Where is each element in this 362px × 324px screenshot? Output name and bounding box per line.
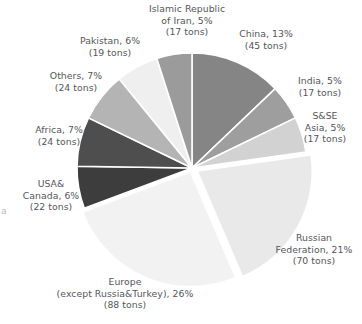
- cropped-text-fragment: a: [1, 205, 7, 217]
- pie-label-line: (17 tons): [133, 26, 241, 38]
- pie-label-line: Europe: [10, 276, 240, 288]
- pie-slice-label: USA&Canada, 6%(22 tons): [9, 178, 93, 213]
- pie-label-line: (70 tons): [266, 255, 362, 267]
- pie-label-line: Russian: [266, 232, 362, 244]
- pie-label-line: (19 tons): [62, 47, 158, 59]
- pie-label-line: Asia, 5%: [290, 122, 360, 134]
- pie-slice-label: RussianFederation, 21%(70 tons): [266, 232, 362, 267]
- pie-label-line: Islamic Republic: [133, 3, 241, 15]
- pie-label-line: (24 tons): [32, 82, 120, 94]
- pie-label-line: India, 5%: [281, 75, 359, 87]
- pie-label-line: (24 tons): [18, 136, 100, 148]
- pie-slice-label: Europe(except Russia&Turkey), 26%(88 ton…: [10, 276, 240, 311]
- pie-label-line: Federation, 21%: [266, 244, 362, 256]
- pie-label-line: Africa, 7%: [18, 124, 100, 136]
- pie-slice-label: Africa, 7%(24 tons): [18, 124, 100, 147]
- pie-label-line: (88 tons): [10, 299, 240, 311]
- pie-chart-figure: China, 13%(45 tons)India, 5%(17 tons)S&S…: [0, 0, 362, 324]
- pie-label-line: (22 tons): [9, 201, 93, 213]
- pie-label-line: (45 tons): [223, 40, 309, 52]
- pie-label-line: Canada, 6%: [9, 190, 93, 202]
- pie-slice-label: India, 5%(17 tons): [281, 75, 359, 98]
- pie-label-line: of Iran, 5%: [133, 15, 241, 27]
- pie-label-line: Others, 7%: [32, 70, 120, 82]
- pie-slice-label: Others, 7%(24 tons): [32, 70, 120, 93]
- pie-slice-label: S&SEAsia, 5%(17 tons): [290, 110, 360, 145]
- pie-label-line: (except Russia&Turkey), 26%: [10, 288, 240, 300]
- pie-label-line: S&SE: [290, 110, 360, 122]
- pie-slice-label: Islamic Republicof Iran, 5%(17 tons): [133, 3, 241, 38]
- pie-label-line: (17 tons): [290, 133, 360, 145]
- pie-slice-label: Pakistan, 6%(19 tons): [62, 35, 158, 58]
- pie-label-line: (17 tons): [281, 87, 359, 99]
- pie-label-line: USA&: [9, 178, 93, 190]
